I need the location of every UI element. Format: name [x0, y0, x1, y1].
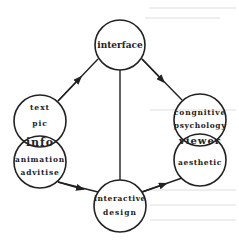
label-interactive: interactive — [94, 194, 146, 203]
label-text: text — [30, 103, 50, 112]
label-viewer: viewer — [178, 135, 221, 146]
node-interactive-design — [94, 180, 146, 232]
label-pic: pic — [32, 119, 48, 128]
label-info: info — [26, 136, 54, 149]
label-animation: animation — [15, 155, 65, 164]
label-design: design — [103, 208, 137, 217]
label-psychology: psychology — [174, 121, 226, 130]
label-aesthetic: aesthetic — [178, 158, 222, 167]
diagram: interface text pic info animation adviti… — [0, 0, 239, 240]
label-interface: interface — [97, 40, 143, 50]
label-congnitive: congnitive — [174, 108, 226, 117]
label-advitise: advitise — [20, 168, 59, 177]
